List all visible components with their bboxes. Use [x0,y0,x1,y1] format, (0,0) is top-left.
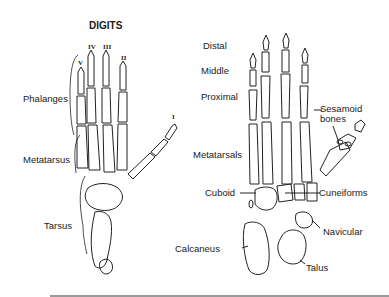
label-middle: Middle [201,66,229,76]
label-calcaneus: Calcaneus [175,244,220,254]
label-proximal: Proximal [201,92,238,102]
label-cuneiforms: Cuneiforms [319,188,368,198]
diagram-title: DIGITS [89,21,122,31]
digit-numeral-i: I [172,113,175,121]
label-navicular: Navicular [323,227,363,237]
label-metatarsus: Metatarsus [23,155,70,165]
label-metatarsals: Metatarsals [193,150,242,160]
label-phalanges: Phalanges [23,94,68,104]
label-talus: Talus [306,263,328,273]
digit-numeral-iv: IV [88,43,96,51]
label-sesamoid-bones: bones [320,114,346,124]
label-cuboid: Cuboid [205,188,235,198]
label-distal: Distal [203,41,227,51]
digit-numeral-iii: III [103,43,111,51]
digit-numeral-ii: II [121,54,126,62]
digit-numeral-v: V [78,59,83,67]
label-tarsus: Tarsus [44,221,72,231]
